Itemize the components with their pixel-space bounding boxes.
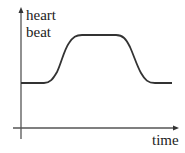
x-axis (13, 126, 179, 131)
y-axis (19, 7, 24, 139)
y-axis-label-line1: heart (26, 7, 57, 23)
heart-beat-diagram: heart beat time (0, 0, 185, 153)
x-axis-label: time (152, 132, 179, 148)
y-axis-arrow-icon (19, 7, 24, 13)
heart-beat-curve (21, 35, 172, 83)
y-axis-label-line2: beat (26, 24, 52, 40)
x-axis-arrow-icon (173, 126, 179, 131)
